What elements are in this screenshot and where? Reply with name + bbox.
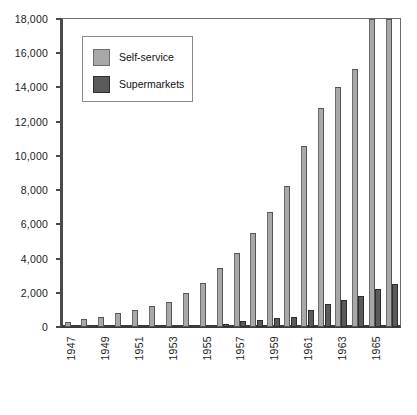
x-axis-tick-label: 1951	[133, 336, 145, 361]
y-axis-tick-label: 8,000	[21, 184, 48, 196]
bar-supermarkets-1957	[240, 321, 246, 327]
bar-self-service-1960	[284, 186, 290, 327]
bar-self-service-1962	[318, 108, 324, 327]
legend-label-self-service: Self-service	[119, 51, 174, 63]
legend-item-self-service: Self-service	[93, 45, 192, 69]
legend-swatch-supermarkets	[93, 76, 110, 93]
y-axis-tick-mark	[56, 258, 60, 260]
y-axis-tick-mark	[56, 326, 60, 328]
bar-self-service-1964	[352, 69, 358, 327]
bar-self-service-1947	[65, 322, 71, 327]
bar-self-service-1959	[267, 212, 273, 328]
y-axis-tick-label: 18,000	[15, 13, 48, 25]
legend-label-supermarkets: Supermarkets	[119, 78, 184, 90]
y-axis-tick-label: 4,000	[21, 253, 48, 265]
bar-chart: 02,0004,0006,0008,00010,00012,00014,0001…	[0, 0, 417, 415]
x-axis-tick-label: 1963	[336, 336, 348, 361]
y-axis-tick-mark	[56, 292, 60, 294]
bar-self-service-1949	[98, 317, 104, 327]
bar-supermarkets-1965	[375, 289, 381, 328]
y-axis-tick-label: 2,000	[21, 287, 48, 299]
y-axis-tick-label: 12,000	[15, 116, 48, 128]
bar-self-service-1961	[301, 146, 307, 327]
bar-self-service-1966	[386, 19, 392, 327]
legend-swatch-self-service	[93, 49, 110, 66]
y-axis-tick-mark	[56, 52, 60, 54]
y-axis-tick-mark	[56, 18, 60, 20]
y-axis-tick-mark	[56, 223, 60, 225]
y-axis-tick-mark	[56, 121, 60, 123]
y-axis-tick-label: 10,000	[15, 150, 48, 162]
bar-self-service-1952	[149, 306, 155, 327]
y-axis-tick-mark	[56, 86, 60, 88]
bar-supermarkets-1959	[274, 318, 280, 327]
x-axis-tick-label: 1959	[268, 336, 280, 361]
y-axis-tick-mark	[56, 155, 60, 157]
bar-self-service-1951	[132, 310, 138, 327]
bar-supermarkets-1960	[291, 317, 297, 327]
bar-supermarkets-1966	[392, 284, 398, 327]
x-axis-tick-label: 1961	[302, 336, 314, 361]
bar-supermarkets-1963	[341, 300, 347, 327]
chart-legend: Self-service Supermarkets	[82, 36, 193, 102]
y-axis-tick-mark	[56, 189, 60, 191]
bar-self-service-1965	[369, 19, 375, 327]
bar-self-service-1954	[183, 293, 189, 327]
x-axis-tick-label: 1965	[370, 336, 382, 361]
bar-supermarkets-1956	[223, 324, 229, 327]
bar-self-service-1948	[81, 319, 87, 327]
y-axis-tick-label: 14,000	[15, 81, 48, 93]
bar-supermarkets-1962	[325, 304, 331, 327]
x-axis-tick-label: 1947	[65, 336, 77, 361]
x-axis-tick-label: 1955	[201, 336, 213, 361]
bar-self-service-1955	[200, 283, 206, 327]
bar-self-service-1957	[234, 253, 240, 327]
legend-item-supermarkets: Supermarkets	[93, 72, 192, 96]
y-axis-tick-label: 16,000	[15, 47, 48, 59]
bar-self-service-1953	[166, 302, 172, 327]
bar-self-service-1958	[250, 233, 256, 327]
x-axis-tick-label: 1949	[99, 336, 111, 361]
bar-self-service-1956	[217, 268, 223, 327]
x-axis-tick-label: 1953	[167, 336, 179, 361]
y-axis: 02,0004,0006,0008,00010,00012,00014,0001…	[0, 0, 56, 415]
x-axis-tick-label: 1957	[234, 336, 246, 361]
bar-self-service-1963	[335, 87, 341, 327]
bar-supermarkets-1964	[358, 296, 364, 327]
bar-supermarkets-1958	[257, 320, 263, 327]
y-axis-tick-label: 6,000	[21, 218, 48, 230]
y-axis-tick-label: 0	[42, 321, 48, 333]
bar-supermarkets-1961	[308, 310, 314, 327]
bar-self-service-1950	[115, 313, 121, 327]
